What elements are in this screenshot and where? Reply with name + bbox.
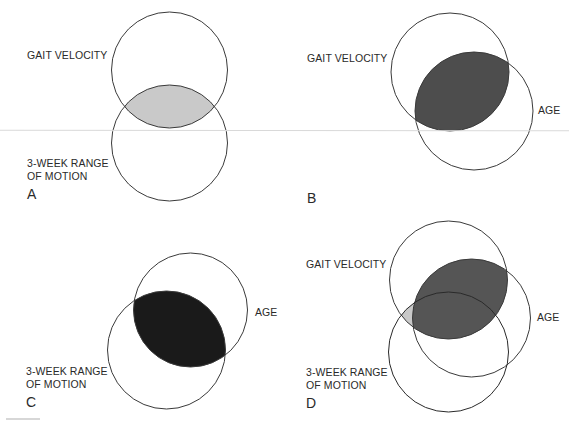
panel-c-intersection-age-rom <box>108 291 226 409</box>
panel-c-label-rom-line2: OF MOTION <box>26 378 86 391</box>
panel-a-label-rom-line2: OF MOTION <box>27 170 87 183</box>
panel-a <box>112 12 228 201</box>
panel-d-label-gait-velocity: GAIT VELOCITY <box>306 258 386 271</box>
panel-a-label-gait-velocity: GAIT VELOCITY <box>27 49 107 62</box>
panel-b <box>391 13 533 170</box>
panel-a-intersection-gait-rom <box>112 85 228 201</box>
panel-d-intersection-gait-age <box>413 259 531 377</box>
panel-c-letter: C <box>26 395 36 409</box>
panel-c <box>108 253 248 409</box>
panel-a-letter: A <box>27 187 36 201</box>
panel-b-intersection-gait-age <box>415 52 533 170</box>
panel-d-label-rom-line1: 3-WEEK RANGE <box>306 366 388 379</box>
scan-artifact-smudge <box>6 418 40 420</box>
panel-d-label-rom-line2: OF MOTION <box>306 379 366 392</box>
panel-b-label-age: AGE <box>538 104 560 117</box>
venn-figure: GAIT VELOCITY 3-WEEK RANGE OF MOTION A G… <box>0 0 569 421</box>
panel-b-label-gait-velocity: GAIT VELOCITY <box>307 52 387 65</box>
panel-d-label-age: AGE <box>537 311 559 324</box>
venn-diagram-canvas <box>0 0 569 421</box>
panel-b-letter: B <box>307 191 316 205</box>
panel-c-label-age: AGE <box>255 306 277 319</box>
panel-d-letter: D <box>306 396 316 410</box>
panel-d <box>389 221 531 412</box>
panel-a-label-rom-line1: 3-WEEK RANGE <box>27 157 109 170</box>
panel-c-label-rom-line1: 3-WEEK RANGE <box>26 365 108 378</box>
